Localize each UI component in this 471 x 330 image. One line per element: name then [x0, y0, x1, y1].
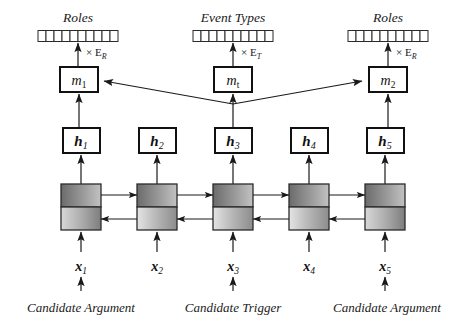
output-heading-event-types: Event Types — [200, 10, 266, 25]
input-node-x1-label: x1 — [74, 259, 87, 276]
input-node-x2-label: x2 — [150, 259, 163, 276]
output-heading-roles-left: Roles — [62, 10, 93, 25]
memory-node-m2: m2 — [369, 67, 407, 92]
output-group-roles-left: Roles × ER — [38, 10, 118, 67]
hidden-node-h1: h1 — [63, 128, 100, 153]
caption-candidate-trigger: Candidate Trigger — [185, 300, 282, 315]
hidden-node-h3: h3 — [215, 128, 252, 153]
input-node-x5-label: x5 — [378, 259, 391, 276]
multiplier-label-event-types: × ET — [241, 46, 262, 61]
rnn-cell-5 — [365, 184, 405, 230]
rnn-cell-4 — [289, 184, 329, 230]
hidden-node-h2: h2 — [139, 128, 176, 153]
output-vector-event-types — [193, 31, 273, 42]
figure-canvas: Roles × ER Event Types — [0, 0, 471, 330]
memory-node-mt: mt — [214, 67, 252, 92]
output-vector-roles-left — [38, 31, 118, 42]
memory-node-m1: m1 — [60, 67, 98, 92]
architecture-diagram: Roles × ER Event Types — [0, 0, 471, 330]
multiplier-label-roles-right: × ER — [396, 46, 417, 61]
output-vector-roles-right — [348, 31, 428, 42]
caption-candidate-argument-left: Candidate Argument — [27, 300, 135, 315]
caption-candidate-argument-right: Candidate Argument — [333, 300, 441, 315]
hidden-node-h5: h5 — [367, 128, 404, 153]
output-group-event-types: Event Types × ET — [193, 10, 273, 67]
hidden-node-h4: h4 — [291, 128, 328, 153]
rnn-cell-2 — [137, 184, 177, 230]
input-node-x3-label: x3 — [226, 259, 239, 276]
rnn-cell-1 — [61, 184, 101, 230]
multiplier-label-roles-left: × ER — [86, 46, 107, 61]
input-node-x4-label: x4 — [302, 259, 315, 276]
output-group-roles-right: Roles × ER — [348, 10, 428, 67]
rnn-cell-3 — [213, 184, 253, 230]
output-heading-roles-right: Roles — [372, 10, 403, 25]
